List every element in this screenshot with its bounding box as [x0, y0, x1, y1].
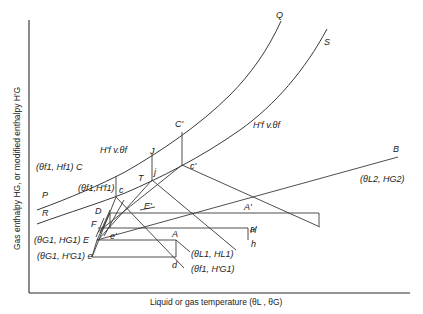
x-axis-label: Liquid or gas temperature (θL , θG)	[150, 297, 283, 307]
label-c-prime: c'	[190, 161, 197, 171]
label-j: j	[153, 167, 157, 177]
label-lower-annotation: H'f v.θf	[253, 120, 281, 130]
label-E: (θG1, HG1) E	[34, 235, 90, 245]
tie-line-j-h	[152, 180, 236, 250]
label-L1: (θL1, HL1)	[191, 249, 233, 259]
label-L2: (θL2, HG2)	[360, 174, 404, 184]
label-S: S	[324, 37, 330, 47]
line-eE	[92, 240, 97, 257]
label-h: h	[251, 239, 256, 249]
label-e: (θG1, H'G1) e	[37, 251, 93, 261]
label-B: B	[393, 144, 399, 154]
label-E-prime: E'	[144, 201, 152, 211]
label-F: F	[91, 219, 97, 229]
label-d: d	[172, 260, 178, 270]
label-c: c	[119, 185, 124, 195]
label-C-prime: C'	[175, 119, 183, 129]
label-Q: Q	[276, 10, 283, 20]
label-e-prime: e'	[110, 231, 117, 241]
enthalpy-diagram: Q S P R B (θL2, HG2) H'f v.θf H'f v.θf C…	[0, 0, 423, 314]
label-P: P	[42, 190, 48, 200]
y-axis-label: Gas enthalpy HG, or modified enthalpy H'…	[12, 87, 22, 250]
line-ED	[97, 213, 110, 240]
label-f1G1: (θf1, H'G1)	[191, 264, 235, 274]
label-c-coord: (θf1,H'f1)	[78, 183, 115, 193]
label-J: J	[149, 146, 155, 156]
line-hatch-2	[100, 210, 110, 233]
label-T: T	[138, 173, 145, 183]
label-D: D	[95, 206, 102, 216]
label-C: (θf1, Hf1) C	[36, 162, 83, 172]
label-upper-annotation: H'f v.θf	[100, 145, 128, 155]
tie-line-A	[176, 240, 190, 252]
tie-line-c'-a'	[182, 165, 320, 227]
label-R: R	[42, 208, 49, 218]
label-H-visible: H	[250, 225, 257, 235]
label-A-prime: A'	[243, 202, 252, 212]
curve-PQ	[37, 21, 281, 210]
label-A: A	[171, 229, 178, 239]
